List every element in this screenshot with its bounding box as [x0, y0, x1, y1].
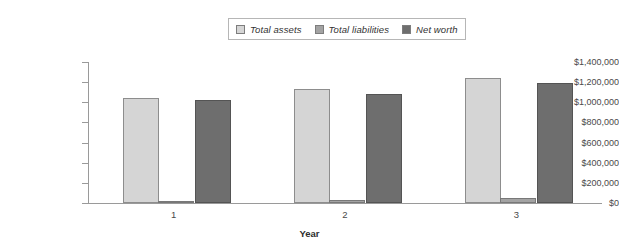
x-axis-tick-label: 1 [171, 209, 176, 220]
legend-label: Net worth [416, 24, 458, 35]
legend-entry[interactable]: Total assets [236, 24, 302, 35]
legend-swatch-icon [236, 25, 245, 34]
legend-swatch-icon [402, 25, 411, 34]
legend-swatch-icon [315, 25, 324, 34]
chart-legend: Total assetsTotal liabilitiesNet worth [228, 18, 466, 40]
y-axis-tick [82, 203, 88, 204]
legend-label: Total assets [250, 24, 302, 35]
bar-liabilities[interactable] [500, 198, 536, 203]
bar-networth[interactable] [537, 83, 573, 203]
x-axis-tick-label: 2 [342, 209, 347, 220]
x-axis-line [88, 203, 602, 204]
x-axis-title: Year [0, 228, 619, 239]
plot-area [88, 62, 602, 203]
x-axis-tick-label: 3 [514, 209, 519, 220]
bar-group [88, 62, 602, 203]
legend-entry[interactable]: Net worth [402, 24, 458, 35]
bar-assets[interactable] [465, 78, 501, 203]
legend-label: Total liabilities [329, 24, 390, 35]
legend-entry[interactable]: Total liabilities [315, 24, 390, 35]
bar-chart: Total assetsTotal liabilitiesNet worth $… [0, 0, 619, 251]
